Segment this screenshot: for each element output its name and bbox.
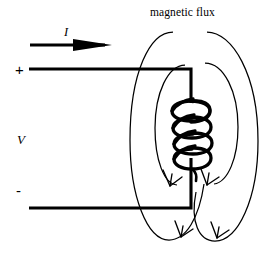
diagram-canvas [0,0,278,259]
voltage-label: V [17,133,25,146]
wire-positive-lead [29,69,191,103]
electromagnet-flux-diagram: magnetic flux I V + - [0,0,278,259]
wire-negative-lead [29,158,191,208]
current-direction-arrow [30,39,112,51]
negative-terminal-label: - [16,183,21,198]
current-label: I [64,26,68,39]
diagram-title-magnetic-flux: magnetic flux [150,7,215,19]
positive-terminal-label: + [15,62,24,77]
solenoid-coil [172,99,212,181]
circuit-wire [29,69,191,208]
